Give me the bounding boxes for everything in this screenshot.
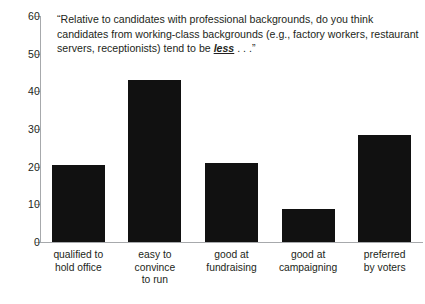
y-axis-tick-group: 20: [0, 167, 40, 168]
y-axis-tick-label: 0: [12, 237, 40, 248]
y-axis-tick-label: 20: [12, 162, 40, 173]
chart-title: “Relative to candidates with professiona…: [57, 12, 421, 56]
bar: [282, 209, 335, 242]
x-axis-category-label: good atfundraising: [193, 249, 270, 274]
bar: [205, 163, 258, 242]
y-axis-tick-group: 40: [0, 91, 40, 92]
x-axis-category-label: preferredby voters: [346, 249, 423, 274]
title-emphasis: less: [214, 42, 235, 54]
y-axis-tick-label: 60: [12, 11, 40, 22]
y-axis-tick-label: 10: [12, 199, 40, 210]
y-axis-tick-label: 40: [12, 86, 40, 97]
bar: [128, 80, 181, 242]
y-axis-tick-group: 10: [0, 204, 40, 205]
bar-chart: 0102030405060 qualified tohold officeeas…: [0, 0, 425, 304]
bar: [358, 135, 411, 242]
y-axis-tick-label: 30: [12, 124, 40, 135]
y-axis-tick-group: 50: [0, 54, 40, 55]
y-axis-tick-group: 60: [0, 16, 40, 17]
x-axis-category-label: easy toconvinceto run: [117, 249, 194, 287]
bar: [52, 165, 105, 242]
y-axis-tick-group: 30: [0, 129, 40, 130]
y-axis-tick-group: 0: [0, 242, 40, 243]
x-axis-line: [40, 242, 423, 243]
x-axis-category-label: good atcampaigning: [270, 249, 347, 274]
y-axis-tick-label: 50: [12, 49, 40, 60]
x-axis-category-label: qualified tohold office: [40, 249, 117, 274]
